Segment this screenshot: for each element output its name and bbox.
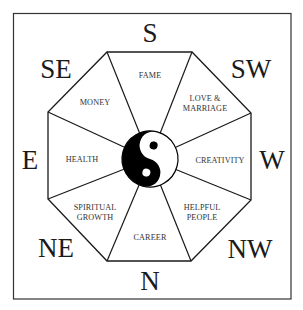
direction-northeast: NE [38, 233, 74, 263]
area-career: CAREER [134, 233, 167, 242]
area-creativity: CREATIVITY [195, 156, 244, 165]
area-spiritual-growth-line2: GROWTH [77, 213, 114, 222]
area-fame: FAME [139, 71, 162, 80]
direction-southwest: SW [231, 54, 272, 84]
bagua-diagram: S SW W NW N NE E SE FAME LOVE & MARRIAGE… [0, 0, 303, 310]
direction-southeast: SE [40, 54, 72, 84]
area-helpful-people-line2: PEOPLE [187, 213, 218, 222]
area-money: MONEY [80, 98, 111, 107]
area-love-marriage-line1: LOVE & [190, 94, 221, 103]
direction-east: E [22, 145, 39, 175]
area-love-marriage-line2: MARRIAGE [183, 104, 227, 113]
direction-north: N [140, 266, 160, 296]
area-health: HEALTH [66, 155, 99, 164]
direction-west: W [259, 145, 285, 175]
direction-south: S [142, 18, 157, 48]
area-helpful-people-line1: HELPFUL [184, 203, 221, 212]
direction-northwest: NW [228, 234, 273, 264]
area-spiritual-growth-line1: SPIRITUAL [74, 203, 117, 212]
